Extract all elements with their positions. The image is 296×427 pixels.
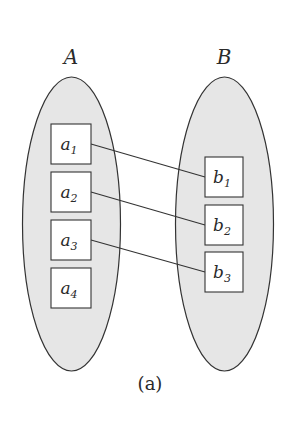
element-a2: a2 <box>51 172 91 212</box>
set-label-a: A <box>62 45 78 69</box>
element-a3: a3 <box>51 220 91 260</box>
element-a1: a1 <box>51 124 91 164</box>
mapping-diagram: A B a1 a2 a3 a4 b1 b2 b3 (a) <box>0 0 296 427</box>
element-b3: b3 <box>205 252 243 292</box>
element-a4: a4 <box>51 268 91 308</box>
figure-caption: (a) <box>138 373 163 394</box>
element-b2: b2 <box>205 205 243 245</box>
set-label-b: B <box>216 45 232 69</box>
element-b1: b1 <box>205 157 243 197</box>
